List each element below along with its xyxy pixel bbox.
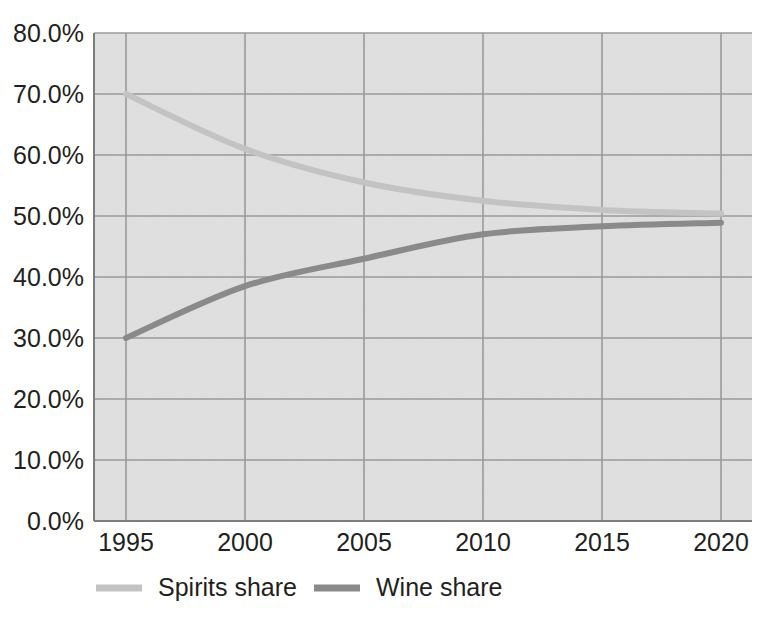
chart-legend: Spirits share Wine share — [96, 573, 502, 601]
x-axis-tick-labels: 1995 2000 2005 2010 2015 2020 — [98, 528, 749, 556]
x-tick-label: 2010 — [455, 528, 511, 556]
x-tick-label: 2005 — [336, 528, 392, 556]
legend-label-wine-share: Wine share — [376, 573, 502, 601]
x-tick-label: 2000 — [217, 528, 273, 556]
y-tick-label: 40.0% — [13, 263, 84, 291]
y-tick-label: 30.0% — [13, 324, 84, 352]
x-tick-label: 2020 — [693, 528, 749, 556]
y-tick-label: 70.0% — [13, 80, 84, 108]
y-tick-label: 10.0% — [13, 446, 84, 474]
chart-figure: 80.0% 70.0% 60.0% 50.0% 40.0% 30.0% 20.0… — [0, 0, 779, 621]
y-axis-tick-labels: 80.0% 70.0% 60.0% 50.0% 40.0% 30.0% 20.0… — [13, 19, 84, 535]
plot-area — [94, 33, 752, 521]
y-tick-label: 50.0% — [13, 202, 84, 230]
y-tick-label: 0.0% — [27, 507, 84, 535]
x-tick-label: 2015 — [574, 528, 630, 556]
legend-item-spirits-share: Spirits share — [96, 573, 297, 601]
y-tick-label: 60.0% — [13, 141, 84, 169]
legend-label-spirits-share: Spirits share — [158, 573, 297, 601]
x-tick-label: 1995 — [98, 528, 154, 556]
legend-item-wine-share: Wine share — [314, 573, 502, 601]
line-chart: 80.0% 70.0% 60.0% 50.0% 40.0% 30.0% 20.0… — [0, 0, 779, 621]
y-tick-label: 20.0% — [13, 385, 84, 413]
y-tick-label: 80.0% — [13, 19, 84, 47]
